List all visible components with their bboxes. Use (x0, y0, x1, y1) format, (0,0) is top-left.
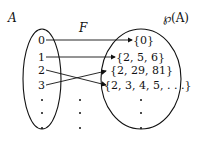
domain-element-3: 3 (38, 80, 45, 91)
domain-element-1: 1 (38, 52, 45, 63)
codomain-element-set256: {2, 5, 6} (116, 52, 165, 63)
function-label: F (79, 23, 87, 34)
codomain-element-set2345: {2, 3, 4, 5, . . .} (104, 80, 191, 91)
codomain-ellipsis-dots (140, 99, 142, 129)
codomain-element-set22981: {2, 29, 81} (110, 65, 173, 76)
codomain-label: ℘(A) (163, 13, 189, 24)
domain-element-2: 2 (38, 65, 45, 76)
domain-element-0: 0 (38, 35, 45, 46)
domain-label: A (8, 13, 17, 24)
domain-ellipsis-dots (41, 99, 43, 129)
codomain-element-set0: {0} (133, 35, 154, 46)
middle-ellipsis-dots (79, 99, 81, 129)
